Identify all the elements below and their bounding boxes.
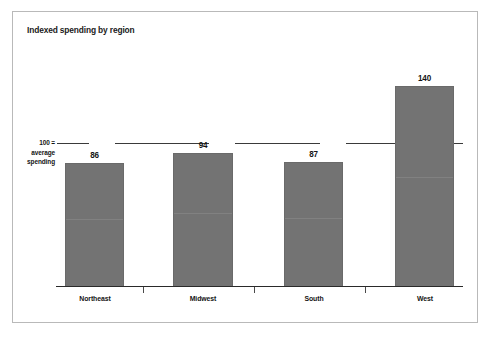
category-label-midwest: Midwest bbox=[168, 294, 238, 303]
reference-line-caption-2: spending bbox=[16, 157, 55, 167]
chart-frame: Indexed spending by region 86 94 87 140 … bbox=[12, 11, 478, 323]
bar-midwest bbox=[173, 153, 233, 287]
bar-south bbox=[284, 162, 343, 287]
axis-tick bbox=[365, 287, 366, 293]
reference-line-caption-1: average bbox=[16, 148, 55, 158]
axis-tick bbox=[143, 287, 144, 293]
reference-line-value: 100 = bbox=[16, 138, 55, 148]
reference-line-segment bbox=[57, 143, 89, 144]
bar-northeast bbox=[65, 163, 124, 287]
axis-tick bbox=[254, 287, 255, 293]
category-label-west: West bbox=[390, 294, 460, 303]
value-label-west: 140 bbox=[398, 73, 451, 83]
value-label-south: 87 bbox=[287, 149, 340, 159]
value-label-midwest: 94 bbox=[176, 140, 230, 150]
value-label-northeast: 86 bbox=[68, 150, 121, 160]
reference-line-segment bbox=[235, 143, 320, 144]
bar-west bbox=[395, 86, 454, 287]
plot-area: 86 94 87 140 Northeast Midwest South Wes… bbox=[13, 12, 479, 324]
category-label-south: South bbox=[279, 294, 349, 303]
category-label-northeast: Northeast bbox=[60, 294, 130, 303]
reference-line-annotation: 100 = average spending bbox=[13, 138, 55, 167]
x-axis-line bbox=[56, 286, 463, 287]
